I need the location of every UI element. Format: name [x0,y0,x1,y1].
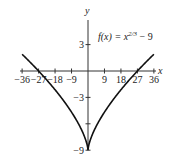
x-tick-label: −9 [66,74,77,85]
y-tick-label: −9 [73,145,84,156]
y-tick-label: −3 [73,92,84,103]
x-tick-label: −36 [14,74,30,85]
annotation-rhs: − 9 [137,31,153,42]
y-tick-label: 3 [79,39,84,50]
x-axis-label: x [157,65,163,76]
x-tick-label: 9 [102,74,107,85]
x-tick-label: −27 [31,74,47,85]
function-annotation: f(x) = x2/3 − 9 [98,30,153,43]
annotation-lhs: f(x) = x [98,31,129,43]
x-tick-label: 18 [116,74,126,85]
y-axis-label: y [84,5,90,16]
function-graph: −36−27−18−99182736 3−3−9 x y f(x) = x2/3… [0,0,169,158]
